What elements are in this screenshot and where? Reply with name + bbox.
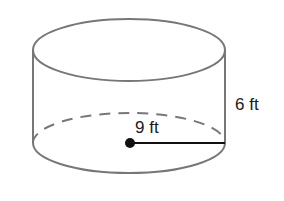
cylinder-diagram: 9 ft 6 ft [0, 0, 284, 201]
center-point [125, 138, 135, 148]
top-face [33, 19, 225, 81]
height-label: 6 ft [235, 95, 259, 114]
radius-label: 9 ft [135, 118, 159, 137]
